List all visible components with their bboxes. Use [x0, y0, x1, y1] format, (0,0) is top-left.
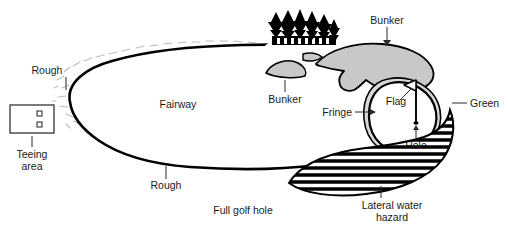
trees-group — [262, 9, 356, 49]
label-bunker-large: Bunker — [370, 14, 404, 26]
label-teeing-area-line1: Teeing — [17, 148, 48, 160]
golf-hole-illustration: Rough Rough Fairway Teeing area Bunker B… — [0, 0, 508, 234]
label-bunker-small: Bunker — [268, 93, 302, 105]
golf-hole-diagram: Rough Rough Fairway Teeing area Bunker B… — [0, 0, 508, 234]
bunker-neck — [303, 53, 322, 61]
label-hole: Hole — [405, 139, 427, 151]
label-hazard-line1: Lateral water — [362, 199, 423, 211]
label-rough-upper: Rough — [32, 64, 63, 76]
label-fairway: Fairway — [160, 98, 198, 110]
hole-cup — [413, 121, 418, 124]
label-rough-lower: Rough — [151, 179, 182, 191]
label-fringe: Fringe — [322, 106, 352, 118]
figure-caption: Full golf hole — [213, 204, 273, 216]
teeing-area-shape — [10, 105, 54, 133]
tee-marker — [37, 111, 42, 116]
label-flag: Flag — [386, 95, 407, 107]
label-hazard-line2: hazard — [376, 211, 408, 223]
tee-marker — [37, 122, 42, 127]
label-teeing-area-line2: area — [21, 160, 42, 172]
label-green: Green — [470, 97, 499, 109]
